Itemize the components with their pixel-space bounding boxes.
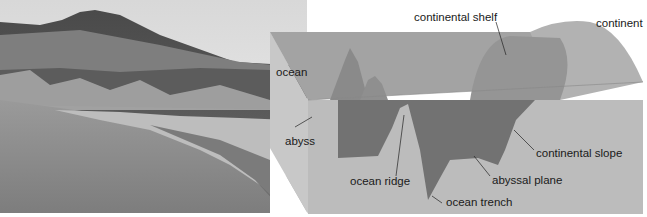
label-ocean-ridge: ocean ridge [350,176,410,188]
label-continental-slope: continental slope [536,148,622,160]
label-abyssal-plane: abyssal plane [492,175,562,187]
label-continent: continent [596,18,643,30]
label-abyss: abyss [285,136,315,148]
label-ocean-trench: ocean trench [446,197,513,209]
label-ocean: ocean [276,67,307,79]
label-continental-shelf: continental shelf [414,12,497,24]
